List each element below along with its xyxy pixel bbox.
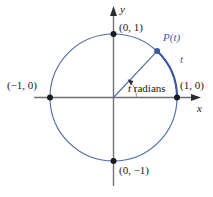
label-axis-y: y: [120, 4, 125, 15]
label-point-top: (0, 1): [119, 22, 143, 33]
unit-circle-figure: (0, 1) (−1, 0) (1, 0) (0, −1) P(t) t t r…: [0, 0, 213, 197]
label-point-left: (−1, 0): [7, 80, 37, 91]
label-point-right: (1, 0): [180, 80, 204, 91]
point-top: [111, 31, 117, 37]
label-point-bottom: (0, −1): [119, 165, 149, 176]
point-left: [47, 95, 53, 101]
label-arc-length-t: t: [180, 54, 183, 65]
point-p-of-t: [154, 48, 160, 54]
unit-circle-diagram: [0, 0, 213, 197]
label-t-radians: t radians: [128, 83, 166, 94]
point-right: [174, 95, 180, 101]
label-p-of-t: P(t): [163, 32, 180, 43]
x-axis-arrowhead-icon: [191, 94, 201, 101]
label-axis-x: x: [197, 103, 202, 114]
label-t-radians-variable: t: [128, 82, 131, 94]
y-axis-arrowhead-icon: [110, 6, 117, 16]
point-bottom: [111, 158, 117, 164]
